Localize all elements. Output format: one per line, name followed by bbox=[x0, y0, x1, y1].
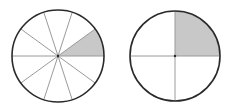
tenths-circle bbox=[12, 10, 104, 102]
diagram-canvas bbox=[0, 0, 226, 111]
center-dot bbox=[57, 55, 59, 57]
fraction-circles-diagram bbox=[0, 0, 226, 111]
quarters-circle bbox=[130, 11, 220, 101]
center-dot bbox=[174, 55, 176, 57]
